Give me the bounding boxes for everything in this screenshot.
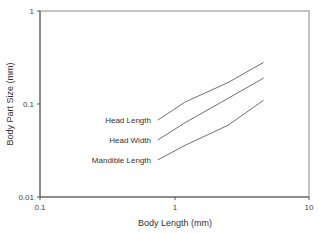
chart: 1 0.1 0.01 0.1 1 10 Body Length (mm) Bod… xyxy=(0,0,319,234)
y-tick-label: 0.1 xyxy=(23,100,35,109)
x-tick-label: 1 xyxy=(173,203,178,212)
x-ticks: 0.1 1 10 xyxy=(34,197,314,212)
plot-frame xyxy=(40,11,309,197)
x-tick-label: 0.1 xyxy=(34,203,46,212)
series-lines xyxy=(158,62,264,160)
series-label-head-width: Head Width xyxy=(109,136,151,145)
y-tick-label: 0.01 xyxy=(18,193,34,202)
y-ticks: 1 0.1 0.01 xyxy=(18,7,40,202)
y-axis-title: Body Part Size (mm) xyxy=(5,62,15,145)
x-axis-title: Body Length (mm) xyxy=(138,218,212,228)
series-label-head-length: Head Length xyxy=(105,116,151,125)
series-label-mandible-length: Mandible Length xyxy=(92,156,151,165)
x-tick-label: 10 xyxy=(305,203,314,212)
y-tick-label: 1 xyxy=(30,7,35,16)
